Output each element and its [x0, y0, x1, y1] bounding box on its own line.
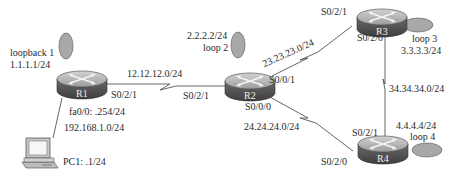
network-r1-r2-label: 12.12.12.0/24	[127, 68, 182, 79]
loopback-r2-icon	[231, 32, 245, 58]
loopback-r2-ip: 2.2.2.2/24	[187, 30, 227, 41]
loopback-r1-ip: 1.1.1.1/24	[10, 59, 50, 70]
router-r2-label: R2	[244, 90, 256, 101]
r1-s0-2-1-label: S0/2/1	[111, 89, 137, 100]
loopback-r3-ip: 3.3.3.3/24	[401, 45, 441, 56]
r2-s0-0-1-label: S0/0/1	[269, 74, 295, 85]
link-r1-pc1	[53, 98, 62, 138]
r2-s0-0-0-label: S0/0/0	[245, 101, 271, 112]
loopback-r3-icon	[403, 18, 433, 32]
loopback-r4-icon	[412, 143, 442, 157]
router-r4-label: R4	[377, 153, 389, 164]
network-r1-pc1-label: 192.168.1.0/24	[64, 122, 124, 133]
loopback-r4-ip: 4.4.4.4/24	[396, 120, 436, 131]
r1-fa0-0-label: fa0/0: .254/24	[69, 106, 125, 117]
network-r3-r4-label: 34.34.34.0/24	[389, 83, 444, 94]
loopback-r1-icon	[59, 33, 73, 59]
loopback-r2-name: loop 2	[203, 42, 228, 53]
network-r2-r4-label: 24.24.24.0/24	[244, 121, 299, 132]
loopback-r3-name: loop 3	[412, 33, 437, 44]
r2-s0-2-1-label: S0/2/1	[183, 90, 209, 101]
r3-s0-2-1-label: S0/2/1	[321, 6, 347, 17]
loopback-r4-name: loop 4	[410, 131, 435, 142]
r4-s0-2-0-label: S0/2/0	[321, 156, 347, 167]
link-r3-r4	[383, 37, 385, 140]
pc1-icon[interactable]	[22, 138, 58, 168]
router-r1-label: R1	[76, 88, 88, 99]
pc1-label: PC1: .1/24	[63, 156, 106, 167]
r3-s0-2-0-label: S0/2/0	[357, 32, 383, 43]
loopback-r1-name: loopback 1	[10, 47, 54, 58]
r4-s0-2-1-label: S0/2/1	[352, 127, 378, 138]
